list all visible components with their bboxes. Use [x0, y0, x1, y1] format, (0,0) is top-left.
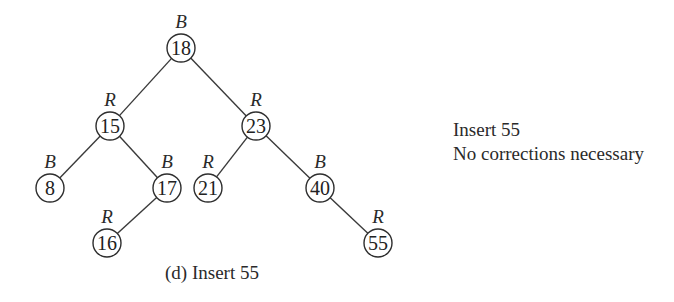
node-key: 17 — [157, 177, 177, 199]
node-key: 23 — [246, 115, 266, 137]
tree-node-18: B18 — [167, 11, 195, 62]
annotation-note: Insert 55 No corrections necessary — [453, 118, 644, 166]
node-key: 8 — [45, 177, 55, 199]
edge-23-21 — [217, 137, 248, 177]
node-color-label: B — [44, 151, 56, 172]
node-color-label: B — [161, 151, 173, 172]
tree-nodes: B18R15R23B8B17R21B40R16R55 — [36, 11, 392, 257]
tree-node-15: R15 — [96, 89, 124, 140]
node-color-label: R — [103, 89, 116, 110]
tree-node-21: R21 — [194, 151, 222, 202]
node-key: 55 — [368, 232, 388, 254]
node-key: 21 — [198, 177, 218, 199]
node-color-label: R — [371, 206, 384, 227]
edge-17-16 — [117, 197, 156, 233]
tree-node-16: R16 — [93, 206, 121, 257]
node-color-label: B — [314, 151, 326, 172]
edge-40-55 — [330, 198, 368, 234]
edge-23-40 — [266, 136, 310, 179]
node-key: 16 — [97, 232, 117, 254]
edge-18-23 — [191, 58, 247, 116]
tree-node-40: B40 — [306, 151, 334, 202]
tree-node-8: B8 — [36, 151, 64, 202]
node-key: 40 — [310, 177, 330, 199]
node-key: 15 — [100, 115, 120, 137]
figure-caption: (d) Insert 55 — [165, 262, 259, 284]
edge-18-15 — [119, 58, 171, 115]
tree-node-17: B17 — [153, 151, 181, 202]
note-line-corrections: No corrections necessary — [453, 142, 644, 166]
node-key: 18 — [171, 37, 191, 59]
tree-node-23: R23 — [242, 89, 270, 140]
node-color-label: R — [249, 89, 262, 110]
note-line-insert: Insert 55 — [453, 118, 644, 142]
edge-15-17 — [119, 136, 157, 177]
node-color-label: B — [175, 11, 187, 32]
tree-node-55: R55 — [364, 206, 392, 257]
node-color-label: R — [100, 206, 113, 227]
edge-15-8 — [60, 136, 101, 178]
node-color-label: R — [201, 151, 214, 172]
